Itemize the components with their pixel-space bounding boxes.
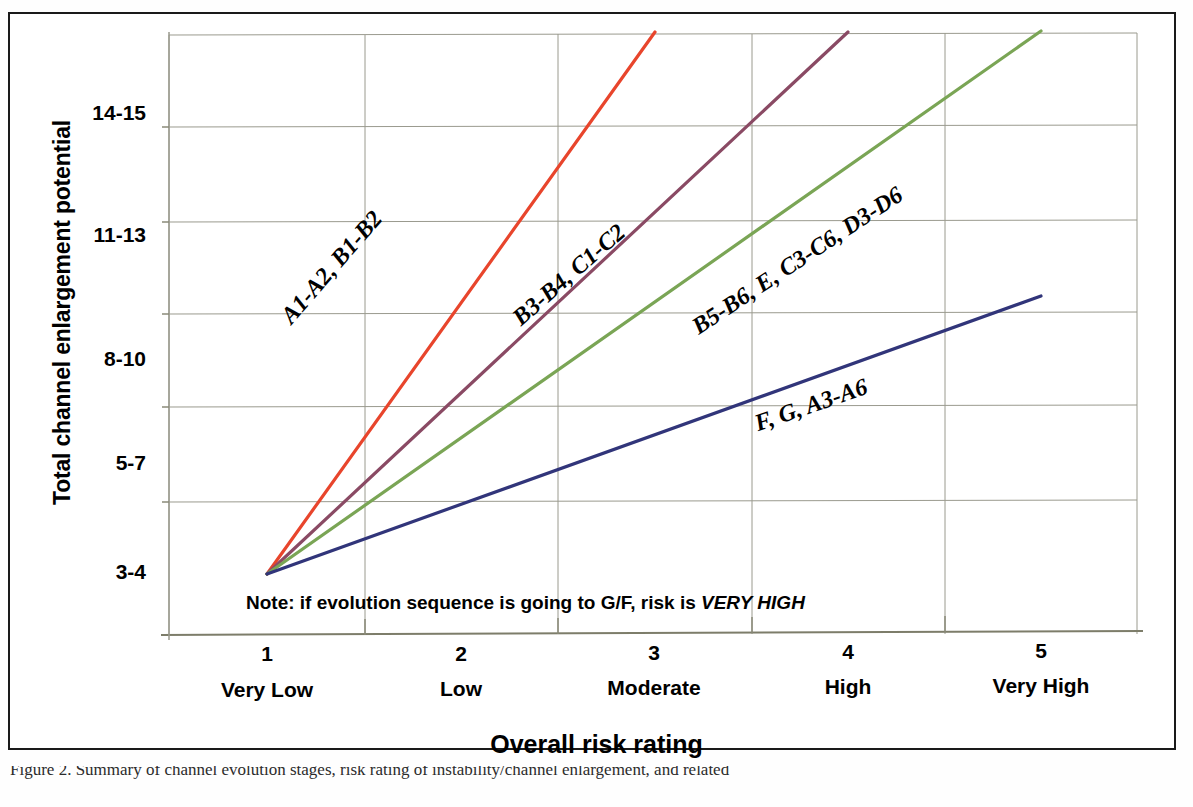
figure-caption-strip: Figure 2. Summary of channel evolution s… [0,766,1193,807]
x-tick-category-very-low: Very Low [177,678,357,702]
figure-page: Total channel enlargement potential [0,0,1193,807]
chart-note: Note: if evolution sequence is going to … [246,592,805,614]
y-tick-label-5-7: 5-7 [26,451,146,475]
y-tick-label-8-10: 8-10 [26,347,146,371]
x-tick-number-1: 1 [197,642,337,666]
x-tick-number-3: 3 [584,641,724,665]
x-tick-number-4: 4 [778,640,918,664]
x-axis-title: Overall risk rating [0,730,1193,759]
x-tick-number-2: 2 [391,642,531,666]
x-tick-category-very-high: Very High [951,674,1131,698]
vertical-gridlines [169,33,1137,634]
figure-frame: Total channel enlargement potential [8,12,1176,750]
x-tick-category-high: High [758,675,938,699]
y-tick-label-14-15: 14-15 [26,101,146,125]
series-line-a1a2-b1b2 [267,32,655,574]
figure-caption: Figure 2. Summary of channel evolution s… [10,766,1190,780]
y-tick-label-11-13: 11-13 [26,223,146,247]
chart-plot-area [10,14,1174,748]
series-line-b5b6-e-c3c6-d3d6 [267,31,1041,574]
chart-note-prefix: Note: if evolution sequence is going to … [246,592,701,613]
x-axis-line [161,631,1143,635]
y-axis-ticks [162,127,169,502]
x-tick-category-moderate: Moderate [564,676,744,700]
x-tick-number-5: 5 [971,639,1111,663]
chart-note-emphasis: VERY HIGH [701,592,805,613]
x-tick-category-low: Low [371,677,551,701]
y-tick-label-3-4: 3-4 [26,560,146,584]
series-line-f-g-a3a6 [267,296,1041,574]
